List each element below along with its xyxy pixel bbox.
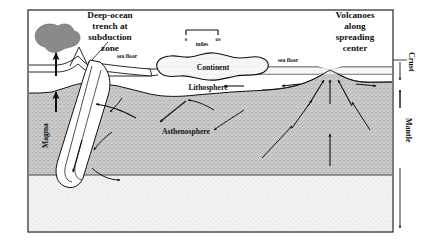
mantle-label: Mantle bbox=[404, 118, 413, 143]
sea-floor-label-right: sea floor bbox=[278, 57, 299, 63]
magma-label: Magma bbox=[41, 123, 50, 148]
diagram-canvas: 0 60 miles Deep-ocean trench at subducti… bbox=[0, 0, 421, 250]
plate-tectonics-figure: 0 60 miles Deep-ocean trench at subducti… bbox=[0, 0, 421, 250]
volcanoes-label-line-4: center bbox=[343, 43, 367, 53]
lower-mantle-layer bbox=[29, 175, 392, 231]
volcanoes-label-line-2: along bbox=[344, 21, 366, 31]
volcanoes-label-line-1: Volcanoes bbox=[336, 10, 375, 20]
scale-bar-units-label: miles bbox=[196, 41, 209, 47]
lithosphere-label: Lithosphere bbox=[188, 83, 228, 92]
scale-bar-max-label: 60 bbox=[216, 37, 222, 42]
volcanoes-label-line-3: spreading bbox=[336, 32, 375, 42]
trench-label-line-3: subduction bbox=[88, 32, 131, 42]
continent-label: Continent bbox=[197, 63, 230, 72]
trench-label-line-1: Deep-ocean bbox=[87, 10, 132, 20]
trench-label-line-2: trench at bbox=[92, 21, 128, 31]
sea-floor-label-left: sea floor bbox=[117, 53, 138, 59]
crust-label: Crust bbox=[407, 52, 416, 72]
trench-label-line-4: zone bbox=[101, 43, 119, 53]
asthenosphere-label: Asthenosphere bbox=[162, 127, 211, 136]
